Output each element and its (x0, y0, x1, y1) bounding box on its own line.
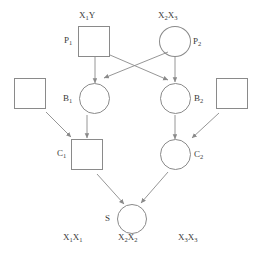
genotype-label-p2: X2X3 (158, 11, 178, 20)
node-p2 (159, 26, 191, 57)
edge-m1-c1 (46, 112, 71, 137)
node-c1 (71, 139, 103, 170)
node-label-p2: P2 (193, 37, 201, 46)
node-label-c1: C1 (57, 149, 66, 158)
node-b1 (79, 83, 110, 114)
node-p1 (78, 26, 110, 57)
node-s (117, 204, 147, 234)
genotype-label-p1: X1Y (79, 11, 95, 20)
node-label-b2: B2 (194, 94, 203, 103)
node-m1-mate (14, 78, 46, 109)
edge-p2-b1 (104, 52, 168, 78)
bottom-genotype-right: X3X3 (178, 233, 198, 242)
edge-c2-s (141, 172, 168, 203)
node-label-b1: B1 (63, 94, 72, 103)
node-label-p1: P1 (64, 36, 72, 45)
node-m2-mate (216, 78, 248, 109)
edge-m2-c2 (192, 113, 219, 138)
node-b2 (160, 83, 191, 114)
bottom-genotype-left: X1X1 (63, 233, 83, 242)
node-c2 (160, 139, 191, 170)
pedigree-diagram: P1 X1Y P2 X2X3 B1 B2 C1 C2 S X1X1 X2X2 X… (0, 0, 262, 258)
edge-p1-b2 (110, 55, 168, 80)
bottom-genotype-middle: X2X2 (118, 233, 138, 242)
edge-c1-s (97, 174, 124, 204)
node-label-c2: C2 (194, 150, 203, 159)
node-label-s: S (105, 214, 110, 223)
